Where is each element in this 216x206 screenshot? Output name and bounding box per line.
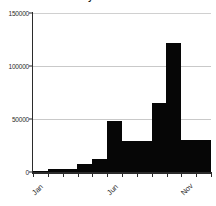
y-tick-mark-150000 bbox=[29, 13, 33, 14]
x-tick-label-nov: Nov bbox=[179, 182, 195, 198]
bar-series bbox=[33, 13, 211, 172]
bar-jul bbox=[122, 141, 137, 172]
chart-container: US monthly casualties in WWII 0500001000… bbox=[0, 0, 216, 206]
y-tick-mark-100000 bbox=[29, 66, 33, 67]
chart-title: US monthly casualties in WWII bbox=[0, 0, 216, 2]
y-tick-mark-50000 bbox=[29, 119, 33, 120]
bar-jun bbox=[107, 121, 122, 172]
plot-area bbox=[33, 13, 211, 172]
y-tick-label-0: 0 bbox=[0, 169, 29, 176]
x-tick-mark-10 bbox=[181, 173, 182, 177]
x-tick-mark-2 bbox=[63, 173, 64, 177]
bar-feb bbox=[48, 169, 63, 172]
x-tick-mark-1 bbox=[48, 173, 49, 177]
x-tick-mark-8 bbox=[152, 173, 153, 177]
y-tick-label-150000: 150000 bbox=[0, 10, 29, 17]
x-tick-mark-6 bbox=[122, 173, 123, 177]
bar-apr bbox=[77, 164, 92, 172]
bar-mar bbox=[63, 169, 78, 172]
x-tick-mark-7 bbox=[137, 173, 138, 177]
x-tick-mark-3 bbox=[78, 173, 79, 177]
y-tick-label-100000: 100000 bbox=[0, 63, 29, 70]
bar-jan bbox=[33, 171, 48, 172]
bar-may bbox=[92, 159, 107, 172]
bar-sep bbox=[152, 103, 167, 172]
bar-aug bbox=[137, 141, 152, 172]
x-tick-mark-12 bbox=[211, 173, 212, 177]
bar-nov bbox=[181, 140, 196, 172]
x-tick-mark-4 bbox=[92, 173, 93, 177]
x-tick-mark-5 bbox=[107, 173, 108, 177]
x-tick-label-jan: Jan bbox=[31, 182, 46, 197]
bar-oct bbox=[166, 43, 181, 172]
x-tick-mark-11 bbox=[196, 173, 197, 177]
y-tick-label-50000: 50000 bbox=[0, 116, 29, 123]
x-tick-label-jun: Jun bbox=[105, 182, 120, 197]
x-tick-mark-9 bbox=[167, 173, 168, 177]
x-tick-mark-0 bbox=[33, 173, 34, 177]
bar-dec bbox=[196, 140, 211, 172]
